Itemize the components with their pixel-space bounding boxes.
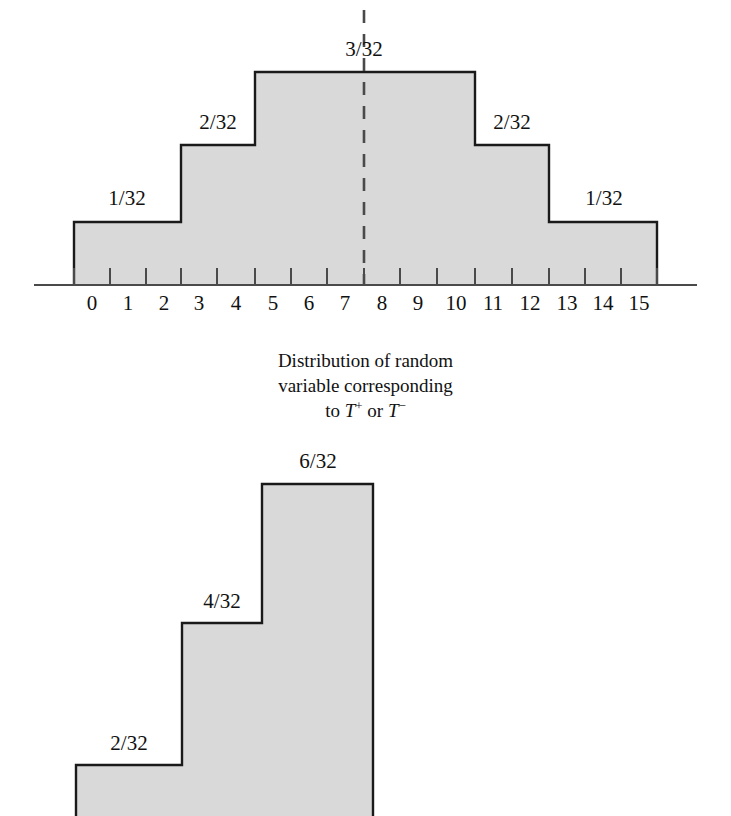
value-label-6-32-bottom: 6/32 <box>299 449 336 473</box>
caption-sup-minus: − <box>399 398 406 413</box>
caption-line-3: to T+ or T− <box>0 398 731 423</box>
tick-label-4: 4 <box>231 291 242 315</box>
tick-label-12: 12 <box>520 291 541 315</box>
top-histogram-svg: 0 1 2 3 4 5 6 7 8 9 10 11 12 13 14 15 1/… <box>0 0 731 340</box>
tick-label-7: 7 <box>340 291 351 315</box>
caption-line3-mid: or <box>363 400 388 421</box>
caption-line-1: Distribution of random <box>0 348 731 373</box>
top-histogram-fill <box>74 72 657 285</box>
tick-label-15: 15 <box>629 291 650 315</box>
value-label-1-32-left: 1/32 <box>108 186 145 210</box>
top-histogram-panel: 0 1 2 3 4 5 6 7 8 9 10 11 12 13 14 15 1/… <box>0 0 731 340</box>
tick-label-14: 14 <box>593 291 615 315</box>
tick-label-5: 5 <box>268 291 279 315</box>
tick-label-6: 6 <box>304 291 315 315</box>
tick-label-0: 0 <box>87 291 98 315</box>
caption-symbol-T-minus: T <box>388 400 399 421</box>
bottom-histogram-panel: 2/32 4/32 6/32 <box>0 430 731 816</box>
tick-label-8: 8 <box>377 291 388 315</box>
tick-label-11: 11 <box>483 291 503 315</box>
value-label-4-32-bottom: 4/32 <box>203 589 240 613</box>
tick-label-3: 3 <box>194 291 205 315</box>
tick-label-9: 9 <box>413 291 424 315</box>
value-label-2-32-right: 2/32 <box>493 110 530 134</box>
caption-line-2: variable corresponding <box>0 373 731 398</box>
tick-label-13: 13 <box>557 291 578 315</box>
caption-symbol-T-plus: T <box>345 400 356 421</box>
bottom-histogram-svg: 2/32 4/32 6/32 <box>0 430 731 816</box>
tick-label-10: 10 <box>446 291 467 315</box>
tick-label-2: 2 <box>159 291 170 315</box>
x-axis-tick-labels: 0 1 2 3 4 5 6 7 8 9 10 11 12 13 14 15 <box>87 291 650 315</box>
figure-caption: Distribution of random variable correspo… <box>0 348 731 423</box>
tick-label-1: 1 <box>123 291 134 315</box>
caption-line3-prefix: to <box>325 400 345 421</box>
value-label-2-32-bottom: 2/32 <box>110 731 147 755</box>
figure-root: 0 1 2 3 4 5 6 7 8 9 10 11 12 13 14 15 1/… <box>0 0 731 816</box>
caption-sup-plus: + <box>355 398 362 413</box>
value-label-1-32-right: 1/32 <box>585 186 622 210</box>
value-label-3-32-center: 3/32 <box>345 37 382 61</box>
value-label-2-32-left: 2/32 <box>199 110 236 134</box>
